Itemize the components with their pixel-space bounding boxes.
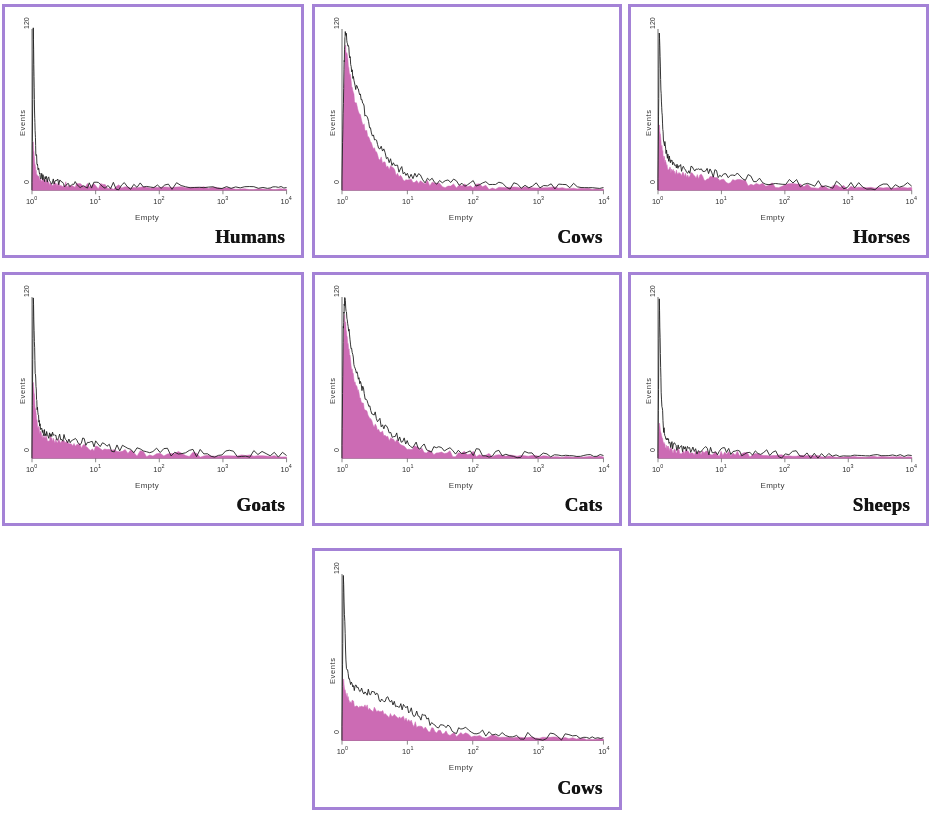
y-axis-max-label: 120 bbox=[23, 18, 30, 30]
x-axis-tick-label: 100 bbox=[26, 195, 37, 206]
panel-body: 1200Events100101102103104EmptySheeps bbox=[631, 275, 926, 523]
x-axis-tick-label: 101 bbox=[402, 463, 413, 474]
histogram-fill-series bbox=[342, 679, 603, 740]
panel-caption: Cows bbox=[557, 226, 602, 248]
x-axis-title: Empty bbox=[449, 213, 473, 222]
x-axis-tick-label: 102 bbox=[153, 463, 164, 474]
panel-horses[interactable]: 1200Events100101102103104EmptyHorses bbox=[628, 4, 929, 258]
histogram-outline-series bbox=[32, 298, 287, 458]
histogram-fill-series bbox=[342, 314, 603, 458]
y-axis-min-label: 0 bbox=[23, 448, 30, 452]
x-axis-tick-label: 100 bbox=[337, 745, 348, 756]
x-axis-title: Empty bbox=[135, 481, 159, 490]
plot-area bbox=[342, 29, 603, 190]
x-axis-tick-label: 100 bbox=[652, 195, 663, 206]
y-axis-max-label: 120 bbox=[23, 286, 30, 298]
x-axis-tick-label: 102 bbox=[779, 463, 790, 474]
histogram-fill-series bbox=[342, 45, 603, 190]
panel-caption: Cows bbox=[557, 777, 602, 799]
x-axis-tick-label: 102 bbox=[779, 195, 790, 206]
panel-humans[interactable]: 1200Events100101102103104EmptyHumans bbox=[2, 4, 304, 258]
panel-cows-2[interactable]: 1200Events100101102103104EmptyCows bbox=[312, 548, 622, 810]
x-axis-tick-label: 104 bbox=[598, 463, 609, 474]
x-axis-tick-label: 102 bbox=[153, 195, 164, 206]
y-axis-title: Events bbox=[644, 109, 653, 136]
histogram-fill-series bbox=[32, 383, 287, 459]
panel-cats[interactable]: 1200Events100101102103104EmptyCats bbox=[312, 272, 622, 526]
plot-area bbox=[342, 574, 603, 740]
y-axis-min-label: 0 bbox=[333, 448, 340, 452]
x-axis-tick-label: 103 bbox=[533, 463, 544, 474]
x-axis-title: Empty bbox=[135, 213, 159, 222]
x-axis-tick-label: 102 bbox=[467, 463, 478, 474]
x-axis-tick-label: 103 bbox=[842, 463, 853, 474]
x-axis-tick-label: 101 bbox=[715, 195, 726, 206]
y-axis-max-label: 120 bbox=[649, 286, 656, 298]
plot-area bbox=[658, 297, 912, 458]
x-axis-tick-label: 100 bbox=[337, 195, 348, 206]
plot-area bbox=[342, 297, 603, 458]
panel-body: 1200Events100101102103104EmptyCats bbox=[315, 275, 619, 523]
histogram-outline-series bbox=[658, 299, 912, 458]
x-axis-tick-label: 101 bbox=[90, 463, 101, 474]
y-axis-min-label: 0 bbox=[333, 180, 340, 184]
panel-body: 1200Events100101102103104EmptyCows bbox=[315, 7, 619, 255]
x-axis-tick-label: 102 bbox=[467, 745, 478, 756]
figure-page: 1200Events100101102103104EmptyHumans 120… bbox=[0, 0, 931, 814]
x-axis-title: Empty bbox=[761, 213, 785, 222]
panel-body: 1200Events100101102103104EmptyGoats bbox=[5, 275, 301, 523]
x-axis-tick-label: 103 bbox=[217, 195, 228, 206]
plot-area bbox=[32, 29, 287, 190]
y-axis-title: Events bbox=[644, 377, 653, 404]
panel-caption: Horses bbox=[853, 226, 910, 248]
x-axis-tick-label: 104 bbox=[598, 745, 609, 756]
y-axis-min-label: 0 bbox=[333, 730, 340, 734]
panel-caption: Sheeps bbox=[853, 494, 910, 516]
x-axis-tick-label: 101 bbox=[90, 195, 101, 206]
panel-caption: Goats bbox=[236, 494, 285, 516]
x-axis-tick-label: 104 bbox=[281, 463, 292, 474]
histogram-fill-series bbox=[658, 125, 912, 190]
panel-caption: Humans bbox=[215, 226, 285, 248]
y-axis-title: Events bbox=[328, 109, 337, 136]
x-axis-title: Empty bbox=[449, 481, 473, 490]
histogram-outline-series bbox=[658, 33, 912, 190]
histogram-fill-series bbox=[658, 423, 912, 458]
plot-area bbox=[32, 297, 287, 458]
x-axis-tick-label: 103 bbox=[217, 463, 228, 474]
x-axis-tick-label: 104 bbox=[906, 195, 917, 206]
x-axis-tick-label: 101 bbox=[402, 745, 413, 756]
y-axis-title: Events bbox=[328, 377, 337, 404]
y-axis-title: Events bbox=[328, 658, 337, 685]
panel-body: 1200Events100101102103104EmptyHumans bbox=[5, 7, 301, 255]
y-axis-title: Events bbox=[18, 109, 27, 136]
y-axis-max-label: 120 bbox=[649, 18, 656, 30]
y-axis-min-label: 0 bbox=[649, 448, 656, 452]
x-axis-title: Empty bbox=[449, 763, 473, 772]
x-axis-tick-label: 104 bbox=[598, 195, 609, 206]
x-axis-tick-label: 100 bbox=[26, 463, 37, 474]
x-axis-tick-label: 104 bbox=[281, 195, 292, 206]
x-axis-tick-label: 103 bbox=[533, 195, 544, 206]
x-axis-tick-label: 103 bbox=[533, 745, 544, 756]
x-axis-tick-label: 100 bbox=[652, 463, 663, 474]
panel-goats[interactable]: 1200Events100101102103104EmptyGoats bbox=[2, 272, 304, 526]
y-axis-max-label: 120 bbox=[333, 18, 340, 30]
y-axis-min-label: 0 bbox=[23, 180, 30, 184]
x-axis-tick-label: 100 bbox=[337, 463, 348, 474]
y-axis-title: Events bbox=[18, 377, 27, 404]
y-axis-min-label: 0 bbox=[649, 180, 656, 184]
plot-area bbox=[658, 29, 912, 190]
x-axis-tick-label: 101 bbox=[402, 195, 413, 206]
panel-caption: Cats bbox=[565, 494, 603, 516]
x-axis-title: Empty bbox=[761, 481, 785, 490]
panel-cows-1[interactable]: 1200Events100101102103104EmptyCows bbox=[312, 4, 622, 258]
histogram-outline-series bbox=[32, 28, 287, 190]
histogram-fill-series bbox=[32, 142, 287, 190]
y-axis-max-label: 120 bbox=[333, 286, 340, 298]
x-axis-tick-label: 104 bbox=[906, 463, 917, 474]
x-axis-tick-label: 101 bbox=[715, 463, 726, 474]
panel-sheeps[interactable]: 1200Events100101102103104EmptySheeps bbox=[628, 272, 929, 526]
panel-body: 1200Events100101102103104EmptyHorses bbox=[631, 7, 926, 255]
x-axis-tick-label: 103 bbox=[842, 195, 853, 206]
